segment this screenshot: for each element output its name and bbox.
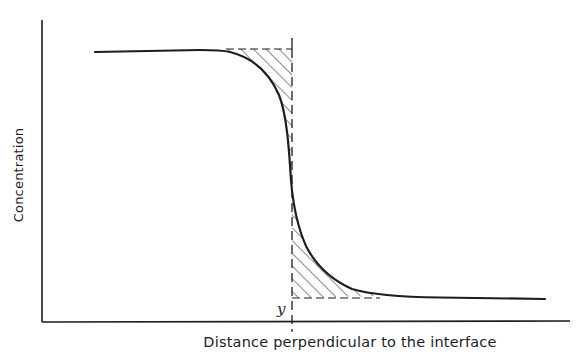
x-axis-label: Distance perpendicular to the interface	[185, 334, 515, 350]
interface-position-label: y	[277, 300, 285, 318]
lower-hatched-region	[288, 200, 388, 302]
concentration-curve	[95, 50, 545, 299]
figure: Concentration Distance perpendicular to …	[0, 0, 582, 357]
y-axis-label: Concentration	[11, 128, 26, 223]
diagram-canvas	[0, 0, 582, 357]
x-axis	[42, 321, 570, 322]
